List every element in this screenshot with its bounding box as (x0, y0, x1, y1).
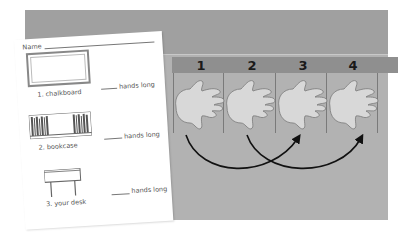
item-label-bookcase: 2. bookcase (38, 141, 77, 151)
answer-suffix-desk: hands long (131, 185, 167, 195)
hand-icon-1 (176, 81, 224, 129)
item-label-desk: 3. your desk (46, 198, 87, 208)
name-line (45, 41, 155, 49)
arrow-1-to-3 (186, 135, 298, 168)
answer-line-chalkboard (101, 88, 117, 90)
name-label: Name (22, 42, 42, 51)
worksheet-paper: Name 1. chalkboard hands long 2. bookcas… (14, 31, 173, 230)
bookcase-icon (29, 111, 92, 139)
answer-line-bookcase (104, 138, 122, 140)
chalkboard-icon (26, 49, 91, 87)
hand-icon-2 (227, 81, 275, 129)
answer-suffix-chalkboard: hands long (119, 80, 155, 90)
hand-icon-3 (279, 81, 327, 129)
hand-icon-4 (330, 81, 378, 129)
answer-line-desk (112, 193, 130, 195)
answer-suffix-bookcase: hands long (124, 130, 160, 140)
item-label-chalkboard: 1. chalkboard (37, 88, 82, 99)
desk-icon (44, 168, 84, 198)
